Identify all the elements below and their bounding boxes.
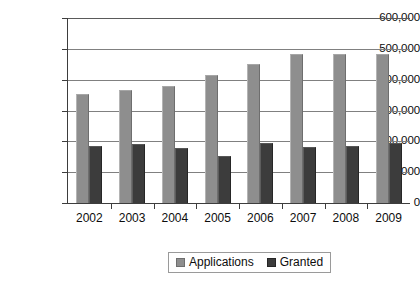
legend-item-granted[interactable]: Granted	[267, 256, 323, 269]
x-axis-tick-mark	[111, 204, 112, 209]
bar-granted-2004	[175, 148, 188, 203]
bar-granted-2008	[346, 146, 359, 203]
x-axis-tick-label: 2004	[155, 212, 195, 225]
bar-chart: 0100,000200,000300,000400,000500,000600,…	[0, 0, 420, 285]
legend-label: Granted	[280, 256, 323, 269]
x-axis-tick-mark	[282, 204, 283, 209]
bar-applications-2005	[205, 75, 218, 203]
x-axis-tick-mark	[367, 204, 368, 209]
x-axis-tick-label: 2003	[112, 212, 152, 225]
bar-applications-2006	[247, 64, 260, 203]
gridline	[68, 18, 410, 19]
x-axis-tick-label: 2005	[198, 212, 238, 225]
bar-applications-2007	[290, 54, 303, 203]
bar-applications-2004	[162, 86, 175, 203]
bar-applications-2002	[76, 94, 89, 203]
bar-granted-2003	[132, 144, 145, 203]
x-axis-tick-mark	[325, 204, 326, 209]
gridline	[68, 80, 410, 81]
x-axis-tick-label: 2006	[240, 212, 280, 225]
x-axis-tick-label: 2002	[69, 212, 109, 225]
bar-granted-2002	[89, 146, 102, 203]
bar-granted-2005	[218, 156, 231, 203]
chart-legend: ApplicationsGranted	[168, 252, 331, 273]
gridline	[68, 49, 410, 50]
legend-swatch-icon	[176, 258, 185, 267]
bar-applications-2003	[119, 90, 132, 203]
legend-label: Applications	[189, 256, 254, 269]
legend-swatch-icon	[267, 258, 276, 267]
x-axis-tick-label: 2009	[369, 212, 409, 225]
bar-granted-2009	[389, 143, 402, 203]
x-axis-tick-label: 2007	[283, 212, 323, 225]
x-axis-tick-mark	[196, 204, 197, 209]
bar-granted-2007	[303, 147, 316, 203]
x-axis-tick-mark	[154, 204, 155, 209]
bar-applications-2009	[376, 54, 389, 203]
plot-area	[68, 18, 410, 203]
bar-granted-2006	[260, 143, 273, 203]
bar-applications-2008	[333, 54, 346, 203]
x-axis-tick-label: 2008	[326, 212, 366, 225]
x-axis-tick-mark	[239, 204, 240, 209]
legend-item-applications[interactable]: Applications	[176, 256, 254, 269]
